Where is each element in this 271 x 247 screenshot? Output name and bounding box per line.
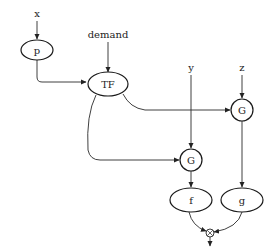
node-g1-label: G <box>187 155 195 166</box>
node-f: f <box>170 188 212 212</box>
edge-p-tf <box>37 60 86 82</box>
edge-tf-g2 <box>123 94 230 110</box>
node-g-label: g <box>239 195 246 206</box>
node-combine <box>206 229 214 237</box>
node-g1: G <box>180 149 202 171</box>
dataflow-diagram: x demand y z p TF G G f g <box>0 0 271 247</box>
node-tf-label: TF <box>101 79 115 90</box>
node-tf: TF <box>88 72 128 96</box>
node-g2: G <box>231 99 253 121</box>
input-label-demand: demand <box>88 29 129 40</box>
node-p-label: p <box>34 45 40 56</box>
input-label-x: x <box>34 8 40 19</box>
edge-tf-g1 <box>88 95 179 160</box>
node-g2-label: G <box>238 105 246 116</box>
node-p: p <box>21 40 53 60</box>
node-g: g <box>221 188 263 212</box>
input-label-z: z <box>239 62 244 73</box>
input-label-y: y <box>187 62 194 73</box>
edge-g-combine <box>214 212 242 232</box>
edge-f-combine <box>189 212 206 231</box>
